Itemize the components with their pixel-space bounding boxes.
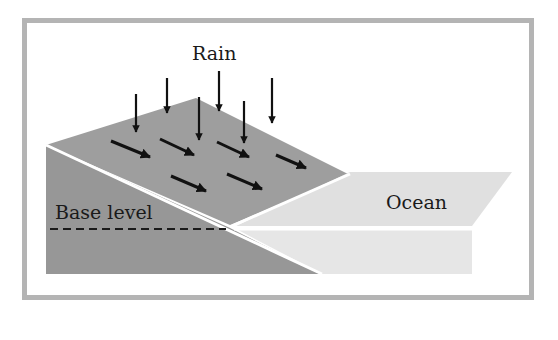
illustration	[0, 0, 558, 340]
base-level-label: Base level	[55, 203, 153, 222]
ocean-label: Ocean	[386, 193, 447, 212]
rain-label: Rain	[192, 44, 236, 63]
